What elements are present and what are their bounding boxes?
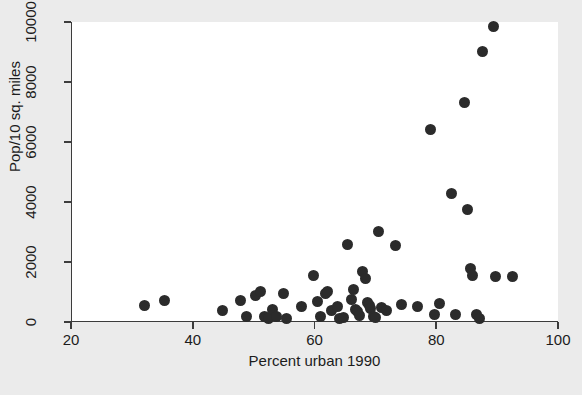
data-point	[434, 298, 445, 309]
data-point	[360, 273, 371, 284]
data-point	[342, 239, 353, 250]
x-tick-mark	[435, 322, 437, 329]
data-point	[241, 311, 252, 322]
scatter-plot-figure: Pop/10 sq. miles 0200040006000800010000 …	[0, 0, 582, 395]
y-tick-label: 8000	[22, 52, 39, 112]
data-point	[348, 284, 359, 295]
x-tick-label: 40	[184, 331, 201, 348]
data-point	[159, 295, 170, 306]
y-tick-mark	[64, 21, 71, 23]
y-tick-label: 0	[22, 292, 39, 352]
y-tick-label: 6000	[22, 112, 39, 172]
data-point	[322, 286, 333, 297]
y-tick-label: 4000	[22, 172, 39, 232]
data-point	[354, 310, 365, 321]
x-tick-mark	[192, 322, 194, 329]
data-point	[446, 188, 457, 199]
x-tick-mark	[314, 322, 316, 329]
data-point	[381, 305, 392, 316]
plot-area	[71, 22, 558, 322]
y-tick-label: 2000	[22, 232, 39, 292]
data-point	[332, 301, 343, 312]
data-point	[429, 309, 440, 320]
data-point	[308, 270, 319, 281]
data-point	[490, 271, 501, 282]
data-point	[255, 286, 266, 297]
data-point	[235, 295, 246, 306]
data-point	[390, 240, 401, 251]
data-point	[278, 288, 289, 299]
data-point	[462, 204, 473, 215]
y-tick-mark	[64, 201, 71, 203]
data-point	[450, 309, 461, 320]
x-tick-label: 100	[545, 331, 570, 348]
data-point	[396, 299, 407, 310]
x-tick-label: 20	[63, 331, 80, 348]
x-tick-mark	[70, 322, 72, 329]
x-axis-ticks: 20406080100	[71, 322, 558, 352]
data-points-layer	[72, 22, 558, 321]
y-tick-mark	[64, 141, 71, 143]
data-point	[477, 46, 488, 57]
data-point	[425, 124, 436, 135]
data-point	[296, 301, 307, 312]
data-point	[412, 301, 423, 312]
x-tick-label: 80	[428, 331, 445, 348]
y-axis-label: Pop/10 sq. miles	[6, 61, 23, 172]
data-point	[488, 21, 499, 32]
data-point	[373, 226, 384, 237]
data-point	[139, 300, 150, 311]
data-point	[315, 311, 326, 322]
x-axis-label: Percent urban 1990	[71, 352, 558, 369]
x-tick-mark	[557, 322, 559, 329]
data-point	[459, 97, 470, 108]
y-tick-mark	[64, 261, 71, 263]
data-point	[507, 271, 518, 282]
y-tick-label: 10000	[22, 0, 39, 52]
y-tick-mark	[64, 81, 71, 83]
data-point	[217, 305, 228, 316]
x-tick-label: 60	[306, 331, 323, 348]
data-point	[467, 270, 478, 281]
